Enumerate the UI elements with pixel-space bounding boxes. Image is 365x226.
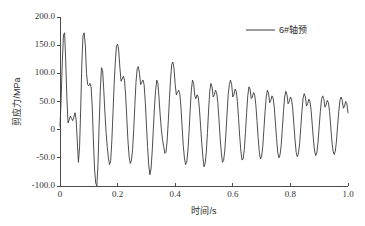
chart-figure: 00.20.40.60.81.0 -100.0-50.0050.0100.015… <box>0 0 365 226</box>
x-tick-label: 0 <box>58 189 63 199</box>
x-tick-label: 1.0 <box>342 189 354 199</box>
y-tick-label: -50.0 <box>36 152 55 162</box>
y-tick-label: 200.0 <box>35 11 56 21</box>
chart-canvas: 00.20.40.60.81.0 -100.0-50.0050.0100.015… <box>0 0 365 226</box>
x-tick-label: 0.6 <box>227 189 239 199</box>
y-tick-labels: -100.0-50.0050.0100.0150.0200.0 <box>32 11 56 190</box>
x-tick-label: 0.4 <box>170 189 182 199</box>
y-tick-label: -100.0 <box>32 180 56 190</box>
x-tick-label: 0.8 <box>285 189 297 199</box>
tick-marks <box>57 17 348 186</box>
legend-label: 6#轴预 <box>279 24 307 35</box>
y-tick-label: 150.0 <box>35 39 56 49</box>
y-tick-label: 0 <box>51 124 56 134</box>
y-tick-label: 50.0 <box>39 96 55 106</box>
x-axis-title: 时间/s <box>191 205 217 216</box>
legend: 6#轴预 <box>246 24 307 35</box>
y-axis-title: 剪应力/MPa <box>11 77 22 125</box>
y-tick-label: 100.0 <box>35 67 56 77</box>
x-tick-labels: 00.20.40.60.81.0 <box>58 189 354 199</box>
series-line-6-axial-preload <box>60 33 348 186</box>
axes <box>60 17 348 186</box>
x-tick-label: 0.2 <box>112 189 123 199</box>
